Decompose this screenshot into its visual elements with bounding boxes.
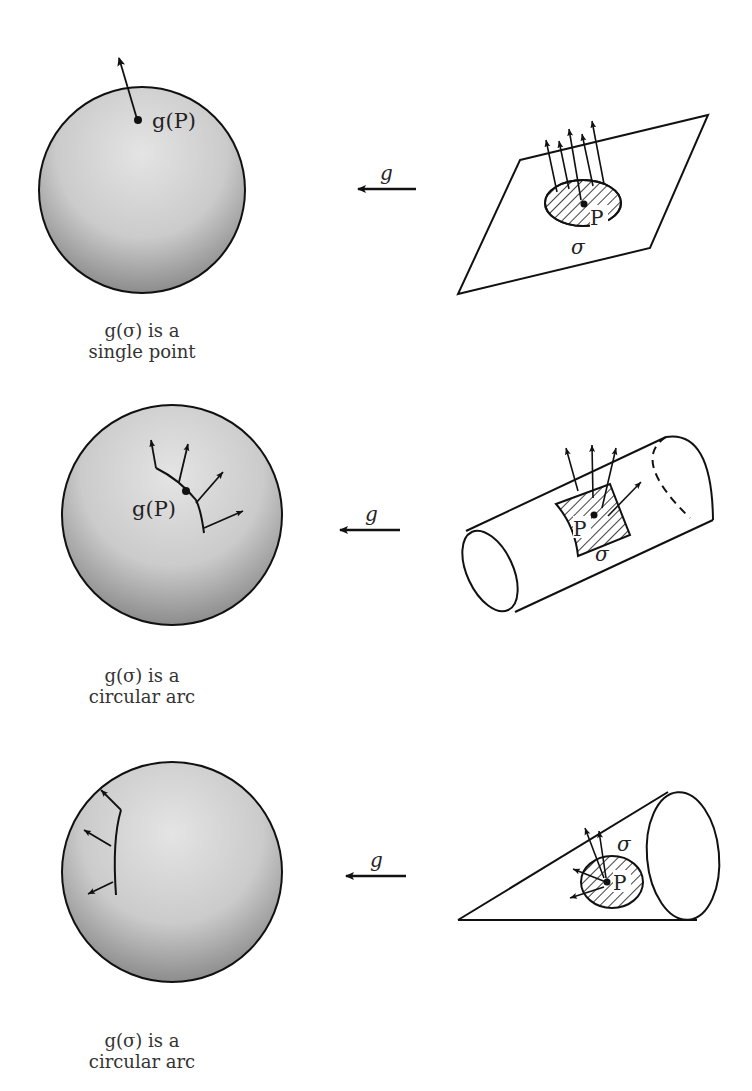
image-point-label-1: g(P)	[152, 109, 196, 133]
map-label-3: g	[370, 848, 383, 872]
gauss-map-figure: g(P) g(σ) is a single point g P σ	[0, 0, 752, 1091]
sphere-3	[62, 762, 282, 982]
sphere-1: g(P)	[39, 58, 245, 293]
row-plane: g(P) g(σ) is a single point g P σ	[39, 58, 708, 362]
region-label-1: σ	[571, 235, 586, 259]
point-label-1: P	[590, 206, 603, 230]
cylinder-surface: P σ	[451, 436, 713, 619]
point-label-3: P	[613, 871, 626, 895]
cone-surface: P σ	[458, 789, 724, 923]
caption-3-line1: g(σ) is a	[104, 1030, 179, 1051]
region-label-3: σ	[617, 832, 632, 856]
caption-1-line2: single point	[88, 341, 196, 362]
caption-3-line2: circular arc	[89, 1051, 195, 1072]
map-label-2: g	[365, 502, 378, 526]
caption-2-line1: g(σ) is a	[104, 665, 179, 686]
map-label-1: g	[380, 161, 393, 185]
row-cylinder: g(P) g(σ) is a circular arc g P σ	[62, 405, 713, 707]
point-g-p	[134, 116, 142, 124]
region-label-2: σ	[595, 542, 610, 566]
map-arrow-1: g	[358, 161, 416, 189]
point-label-2: P	[573, 517, 586, 541]
map-arrow-2: g	[340, 502, 400, 530]
caption-1-line1: g(σ) is a	[104, 320, 179, 341]
sphere-2: g(P)	[62, 405, 282, 625]
caption-2-line2: circular arc	[89, 686, 195, 707]
image-point-label-2: g(P)	[132, 497, 176, 521]
row-cone: g(σ) is a circular arc g P σ	[62, 762, 724, 1072]
plane-surface: P σ	[458, 115, 708, 294]
map-arrow-3: g	[346, 848, 406, 876]
